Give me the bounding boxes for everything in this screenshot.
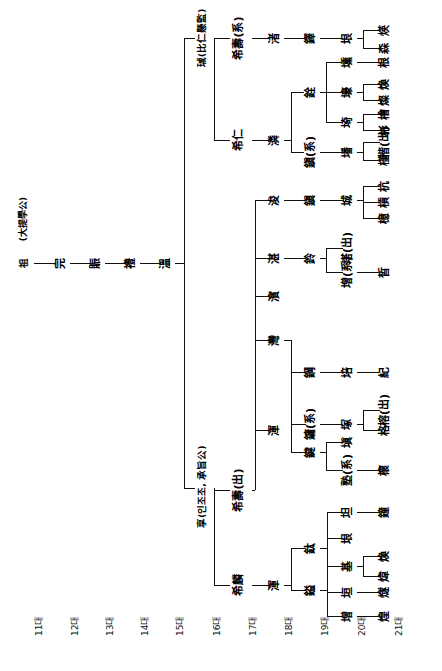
connector-horizontal <box>70 263 91 264</box>
connector-horizontal <box>320 200 343 201</box>
generation-label-16: 16대 <box>210 617 223 636</box>
person-node-g19-geon: 鍵 <box>305 412 321 492</box>
connector-horizontal <box>357 152 363 153</box>
connector-horizontal <box>214 140 230 141</box>
person-node-g21-hwang: 煌 <box>379 576 395 656</box>
connector-vertical <box>363 556 364 576</box>
person-node-g19-ryeong: 鈴 <box>305 218 321 298</box>
connector-horizontal <box>357 616 380 617</box>
connector-horizontal <box>326 62 342 63</box>
connector-vertical <box>363 410 364 430</box>
connector-horizontal <box>284 200 306 201</box>
connector-horizontal <box>357 372 380 373</box>
connector-horizontal <box>320 372 343 373</box>
connector-vertical <box>291 372 292 452</box>
connector-horizontal <box>357 512 380 513</box>
person-node-g20-jeung2: 增 <box>342 576 358 656</box>
person-node-g13: 賑 <box>90 223 106 303</box>
branch-note-top: 珹(比仁懸監) <box>197 0 213 78</box>
connector-horizontal <box>320 38 343 39</box>
connector-horizontal <box>357 92 363 93</box>
connector-horizontal <box>175 263 184 264</box>
connector-horizontal <box>284 258 306 259</box>
person-node-g20-jeung-gye: 增(系) <box>342 232 358 312</box>
person-node-g18-hon: 渾 <box>269 390 285 470</box>
connector-horizontal <box>214 490 230 491</box>
person-node-g17-heesu-out: 希壽(出) <box>233 450 249 530</box>
connector-horizontal <box>357 470 380 471</box>
connector-horizontal <box>291 92 304 93</box>
connector-horizontal <box>34 263 56 264</box>
connector-horizontal <box>214 38 230 39</box>
connector-vertical <box>184 38 185 488</box>
person-node-g19-il: 鎰 <box>305 550 321 630</box>
connector-vertical <box>214 490 215 585</box>
person-node-g15: 溫 <box>160 223 176 303</box>
connector-vertical <box>326 442 327 470</box>
generation-label-15: 15대 <box>173 617 186 636</box>
connector-horizontal <box>291 152 304 153</box>
connector-vertical <box>326 248 327 272</box>
connector-vertical <box>291 548 292 590</box>
person-node-g21-seok: 晳 <box>379 232 395 312</box>
connector-vertical <box>363 30 364 48</box>
connector-horizontal <box>140 263 161 264</box>
connector-vertical <box>255 200 256 490</box>
connector-horizontal <box>252 490 255 491</box>
connector-horizontal <box>284 38 306 39</box>
connector-horizontal <box>214 585 230 586</box>
connector-horizontal <box>284 585 291 586</box>
generation-label-13: 13대 <box>103 617 116 636</box>
connector-vertical <box>214 38 215 140</box>
connector-horizontal <box>357 592 380 593</box>
connector-horizontal <box>326 122 342 123</box>
connector-horizontal <box>320 152 343 153</box>
connector-horizontal <box>320 424 343 425</box>
connector-horizontal <box>320 258 326 259</box>
connector-horizontal <box>320 590 327 591</box>
person-node-g18-yong: 渚 <box>269 0 285 78</box>
connector-horizontal <box>357 566 363 567</box>
connector-horizontal <box>184 38 195 39</box>
person-node-g18-hon2: 渾 <box>269 545 285 625</box>
person-node-g17-heerin: 希麟 <box>233 545 249 625</box>
connector-horizontal <box>326 92 342 93</box>
connector-horizontal <box>320 92 326 93</box>
connector-vertical <box>327 512 328 616</box>
generation-label-11: 11대 <box>32 617 45 636</box>
connector-vertical <box>363 84 364 100</box>
connector-vertical <box>291 92 292 152</box>
connector-horizontal <box>320 452 326 453</box>
connector-horizontal <box>252 38 270 39</box>
generation-label-14: 14대 <box>138 617 151 636</box>
person-node-g17-heein: 希仁 <box>233 100 249 180</box>
connector-vertical <box>291 340 292 372</box>
connector-horizontal <box>284 140 291 141</box>
connector-horizontal <box>284 340 291 341</box>
connector-horizontal <box>184 488 195 489</box>
branch-note-bottom: 享(인조조, 承旨公) <box>197 448 213 528</box>
person-node-g17-heesu-gye: 希壽(系) <box>233 0 249 78</box>
lineage-title-note: (大提學公) <box>19 179 35 259</box>
connector-horizontal <box>105 263 126 264</box>
connector-horizontal <box>320 548 327 549</box>
person-node-g18-man: 灣 <box>269 300 285 380</box>
connector-horizontal <box>252 140 270 141</box>
connector-horizontal <box>357 200 363 201</box>
generation-label-12: 12대 <box>68 617 81 636</box>
connector-horizontal <box>357 272 380 273</box>
connector-horizontal <box>357 62 380 63</box>
connector-vertical <box>363 114 364 130</box>
person-node-g12: 完 <box>55 223 71 303</box>
genealogy-chart: 11대12대13대14대15대16대17대18대19대20대21대祖完賑禮溫(大… <box>0 0 442 671</box>
person-node-g14: 禮 <box>125 223 141 303</box>
connector-vertical <box>363 142 364 160</box>
